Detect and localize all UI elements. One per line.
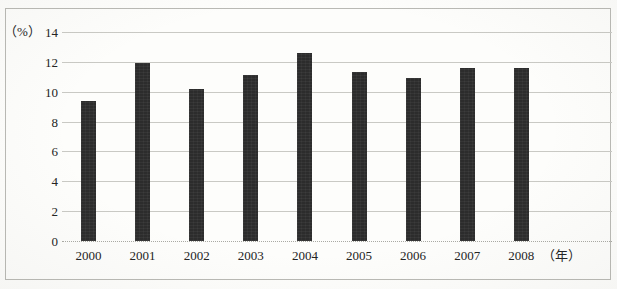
- bar-2003: [243, 75, 258, 241]
- bar-2006: [406, 78, 421, 241]
- y-tick-label-10: 10: [0, 85, 58, 98]
- bar-2005: [352, 72, 367, 241]
- y-tick-label-2: 2: [0, 205, 58, 218]
- bar-2002: [189, 89, 204, 241]
- bar-2007: [460, 68, 475, 241]
- y-tick-label-6: 6: [0, 145, 58, 158]
- x-axis-unit-label: （年）: [542, 249, 581, 263]
- gridline-14: [62, 32, 612, 33]
- bar-2000: [81, 101, 96, 241]
- y-tick-label-8: 8: [0, 115, 58, 128]
- y-tick-label-14: 14: [0, 26, 58, 39]
- gridline-0: [62, 241, 612, 242]
- bar-2008: [514, 68, 529, 241]
- plot-area: [62, 32, 612, 241]
- y-tick-label-12: 12: [0, 55, 58, 68]
- y-axis-tick-labels: 02468101214: [0, 32, 58, 241]
- y-tick-label-0: 0: [0, 235, 58, 248]
- y-tick-label-4: 4: [0, 175, 58, 188]
- x-axis-tick-labels: 200020012002200320042005200620072008（年）: [0, 249, 617, 273]
- bar-2001: [135, 63, 150, 241]
- bar-2004: [297, 53, 312, 241]
- bar-chart-figure: （%） 02468101214 200020012002200320042005…: [0, 0, 617, 289]
